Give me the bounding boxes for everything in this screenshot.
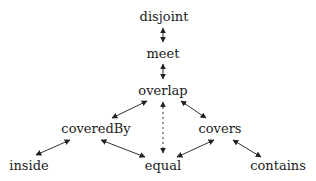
relation-diagram: disjointmeetoverlapcoveredBycoversinside… (0, 0, 316, 181)
node-meet: meet (147, 47, 180, 60)
node-contains: contains (250, 159, 306, 172)
edge-overlap-covers-arrow (181, 101, 206, 118)
edge-covers-equal-arrow (177, 140, 214, 157)
node-disjoint: disjoint (140, 10, 189, 23)
node-overlap: overlap (138, 84, 187, 97)
edge-coveredBy-equal-arrow (101, 140, 145, 157)
edge-overlap-coveredBy-arrow (112, 101, 147, 118)
edge-covers-contains-arrow (233, 140, 261, 157)
edge-coveredBy-inside-arrow (36, 140, 70, 155)
node-coveredBy: coveredBy (61, 122, 130, 135)
node-equal: equal (145, 159, 181, 172)
node-covers: covers (198, 122, 241, 135)
node-inside: inside (9, 159, 48, 172)
